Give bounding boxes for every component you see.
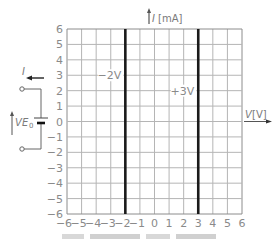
y-axis-label: I [mA] (147, 8, 182, 24)
y-tick-label: −2 (47, 146, 63, 159)
x-tick-label: 1 (166, 217, 173, 230)
x-tick-label: 4 (209, 217, 216, 230)
svg-text:[V]: [V] (252, 109, 267, 120)
y-tick-label: 6 (56, 23, 63, 36)
y-tick-label: −4 (47, 177, 63, 190)
x-tick-label: 5 (224, 217, 231, 230)
source-label: E (22, 117, 29, 128)
x-tick-label: −1 (129, 217, 145, 230)
x-axis-arrowhead-icon (266, 120, 272, 124)
x-tick-label: 3 (195, 217, 202, 230)
series-label: −2V (98, 69, 122, 82)
figure-caption-clipped (62, 234, 216, 239)
x-tick-label: 6 (239, 217, 246, 230)
x-axis-ticks: −6−5−4−3−2−10123456 (56, 217, 246, 230)
bottom-terminal-icon (20, 147, 24, 151)
y-tick-label: 0 (56, 116, 63, 129)
y-tick-label: −1 (47, 131, 63, 144)
y-tick-label: 5 (56, 38, 63, 51)
x-tick-label: 0 (151, 217, 158, 230)
y-tick-label: 1 (56, 100, 63, 113)
top-terminal-icon (20, 87, 24, 91)
y-tick-label: −3 (47, 162, 63, 175)
svg-text:[mA]: [mA] (158, 13, 182, 24)
chart-grid (67, 29, 242, 214)
current-label: I (22, 66, 25, 77)
x-axis-label: V [V] (244, 109, 272, 124)
y-tick-label: 2 (56, 85, 63, 98)
y-tick-label: −5 (47, 193, 63, 206)
y-axis-arrowhead-icon (147, 8, 151, 13)
y-tick-label: 3 (56, 69, 63, 82)
series-label: +3V (171, 85, 195, 98)
y-tick-label: 4 (56, 54, 63, 67)
source-subscript: 0 (29, 122, 33, 130)
svg-text:I: I (152, 13, 155, 24)
y-axis-ticks: 6543210−1−2−3−4−5−6 (47, 23, 63, 221)
x-tick-label: 2 (180, 217, 187, 230)
voltage-source-circuit (10, 76, 48, 152)
iv-characteristic-figure: 6543210−1−2−3−4−5−6 −6−5−4−3−2−10123456 … (0, 0, 278, 239)
